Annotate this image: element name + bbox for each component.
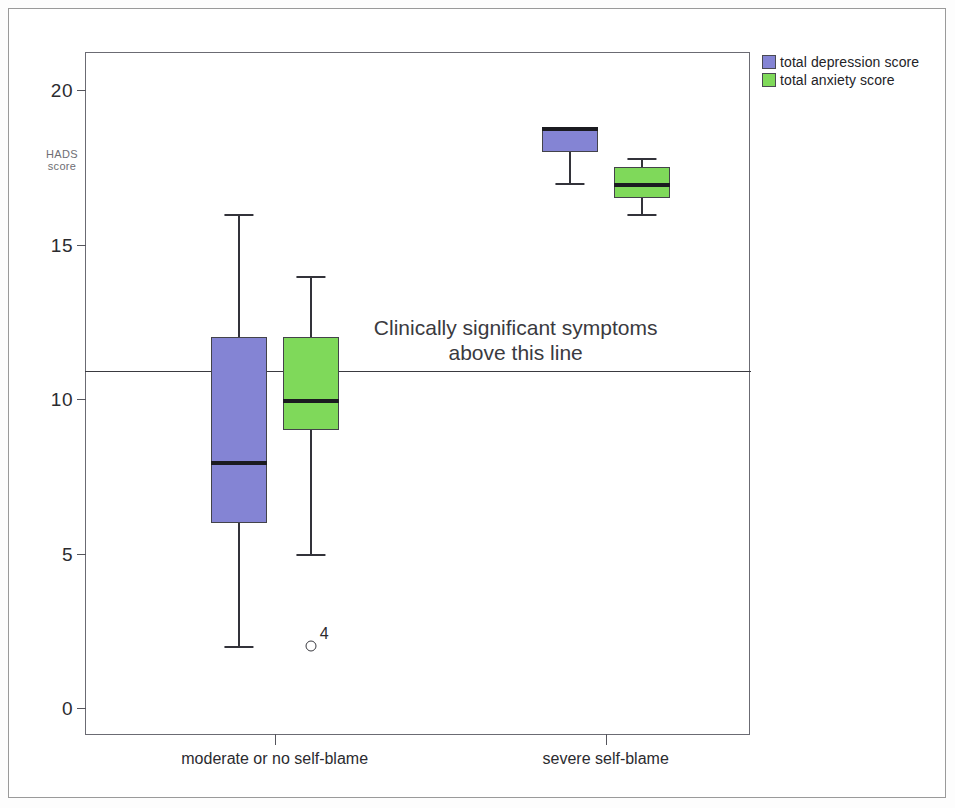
outlier-point	[305, 641, 316, 652]
chart-legend: total depression score total anxiety sco…	[762, 54, 919, 88]
box-plot-glyph	[86, 53, 749, 734]
y-axis-tick-label: 20	[51, 80, 73, 102]
clinical-threshold-line	[85, 371, 751, 372]
y-axis-tick: 0	[77, 708, 86, 709]
outlier-label: 4	[320, 625, 329, 643]
box-iqr	[283, 337, 339, 430]
whisker-cap-upper	[627, 158, 656, 160]
y-axis-title: HADS score	[40, 148, 84, 172]
box-iqr	[614, 167, 670, 198]
page-canvas: HADS score 05101520moderate or no self-b…	[0, 0, 955, 808]
clinical-threshold-annotation-line-1: Clinically significant symptoms	[374, 315, 658, 340]
x-axis-tick-label: moderate or no self-blame	[181, 750, 368, 768]
whisker-lower	[310, 430, 312, 554]
whisker-lower	[238, 523, 240, 647]
chart-plot-frame: 05101520moderate or no self-blamesevere …	[85, 52, 750, 735]
y-axis-title-line-1: HADS	[40, 148, 84, 160]
y-axis-tick-label: 10	[51, 389, 73, 411]
legend-label-depression: total depression score	[780, 54, 919, 70]
legend-label-anxiety: total anxiety score	[780, 72, 895, 88]
box-iqr	[211, 337, 267, 522]
legend-swatch-depression	[762, 55, 776, 69]
box-plot-glyph: 4	[86, 53, 749, 734]
legend-item-anxiety: total anxiety score	[762, 72, 919, 88]
whisker-cap-lower	[296, 554, 325, 556]
whisker-upper	[238, 214, 240, 338]
whisker-lower	[641, 198, 643, 213]
whisker-cap-upper	[296, 276, 325, 278]
box-iqr	[542, 127, 598, 152]
y-axis-tick: 15	[77, 245, 86, 246]
whisker-upper	[310, 276, 312, 338]
y-axis-tick-label: 0	[62, 698, 73, 720]
whisker-cap-upper	[224, 214, 253, 216]
whisker-cap-lower	[627, 214, 656, 216]
legend-swatch-anxiety	[762, 73, 776, 87]
clinical-threshold-annotation: Clinically significant symptomsabove thi…	[374, 315, 658, 365]
box-plot-glyph	[86, 53, 749, 734]
box-median	[283, 399, 339, 403]
whisker-cap-lower	[224, 646, 253, 648]
box-median	[211, 461, 267, 465]
y-axis-tick-label: 15	[51, 235, 73, 257]
y-axis-title-line-2: score	[40, 160, 84, 172]
y-axis-tick: 5	[77, 554, 86, 555]
whisker-lower	[569, 152, 571, 183]
x-axis-tick	[275, 734, 276, 745]
whisker-cap-upper	[555, 127, 584, 129]
x-axis-tick	[606, 734, 607, 745]
box-median	[614, 183, 670, 187]
y-axis-tick-label: 5	[62, 544, 73, 566]
y-axis-tick: 20	[77, 90, 86, 91]
x-axis-tick-label: severe self-blame	[543, 750, 669, 768]
legend-item-depression: total depression score	[762, 54, 919, 70]
plot-area: 05101520moderate or no self-blamesevere …	[86, 53, 749, 734]
clinical-threshold-annotation-line-2: above this line	[374, 340, 658, 365]
y-axis-tick: 10	[77, 399, 86, 400]
whisker-cap-lower	[555, 183, 584, 185]
box-plot-glyph	[86, 53, 749, 734]
box-median	[542, 127, 598, 131]
whisker-upper	[641, 158, 643, 167]
